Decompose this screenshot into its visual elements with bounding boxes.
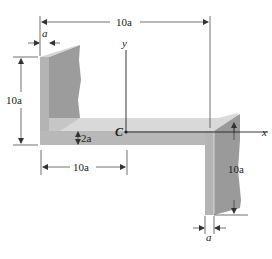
label-right-height: 10a bbox=[228, 163, 244, 175]
x-axis-label: x bbox=[261, 126, 267, 138]
label-left-height: 10a bbox=[6, 94, 22, 106]
left-flange-back-face bbox=[49, 45, 81, 118]
z-section-diagram: y x C 1 bbox=[0, 0, 272, 259]
centroid-point bbox=[124, 130, 127, 133]
y-axis-label: y bbox=[121, 37, 127, 49]
label-top-left-thickness: a bbox=[42, 27, 48, 39]
label-top-width: 10a bbox=[116, 16, 132, 28]
label-bottom-left-width: 10a bbox=[73, 161, 89, 173]
label-web-thickness: 2a bbox=[81, 132, 92, 144]
right-flange-front-face bbox=[205, 131, 214, 215]
centroid-label: C bbox=[115, 125, 124, 139]
label-bottom-right-thickness: a bbox=[206, 231, 212, 243]
